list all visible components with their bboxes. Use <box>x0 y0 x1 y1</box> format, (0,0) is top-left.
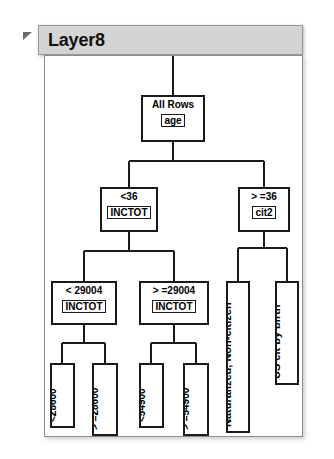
tree-leaf-us-cit-by-birth[interactable]: US cit by birth <box>275 281 299 385</box>
tree-leaf-lt54900[interactable]: <54900 <box>139 363 164 428</box>
tree-node-lt36[interactable]: <36 INCTOT <box>100 187 158 232</box>
node-label-lt29004: < 29004 <box>53 285 115 296</box>
node-split-variable-cit2: cit2 <box>252 206 275 219</box>
leaf-label-us-cit-by-birth: US cit by birth <box>275 304 281 379</box>
node-label-ge29004: > =29004 <box>141 285 207 296</box>
panel-title: Layer8 <box>48 30 105 51</box>
panel-title-bar[interactable]: Layer8 <box>38 25 303 55</box>
leaf-label-ge54900: > =54900 <box>183 388 191 430</box>
tree-node-lt29004[interactable]: < 29004 INCTOT <box>51 281 117 325</box>
tree-leaf-ge54900[interactable]: > =54900 <box>183 363 209 436</box>
node-split-variable-age: age <box>161 114 184 127</box>
layer-panel: Layer8 <box>0 0 334 459</box>
node-label-all-rows: All Rows <box>143 99 203 110</box>
tree-leaf-naturalized[interactable]: Naturalized, Non-citizen <box>226 281 250 433</box>
tree-leaf-lt28600[interactable]: <28600 <box>50 363 75 428</box>
leaf-label-ge28600: > =28600 <box>92 388 100 430</box>
node-split-variable-inctot-right: INCTOT <box>152 300 195 313</box>
node-split-variable-inctot-left: INCTOT <box>62 300 105 313</box>
leaf-label-naturalized: Naturalized, Non-citizen <box>226 302 232 427</box>
tree-leaf-ge28600[interactable]: > =28600 <box>92 363 118 436</box>
tree-node-ge29004[interactable]: > =29004 INCTOT <box>139 281 209 325</box>
triangle-collapse-icon[interactable] <box>23 32 32 40</box>
tree-node-all-rows[interactable]: All Rows age <box>141 95 205 142</box>
leaf-label-lt54900: <54900 <box>139 388 147 422</box>
leaf-label-lt28600: <28600 <box>50 388 58 422</box>
node-label-ge36: > =36 <box>240 191 288 202</box>
node-label-lt36: <36 <box>102 191 156 202</box>
tree-node-ge36[interactable]: > =36 cit2 <box>238 187 290 232</box>
node-split-variable-inctot: INCTOT <box>107 206 150 219</box>
